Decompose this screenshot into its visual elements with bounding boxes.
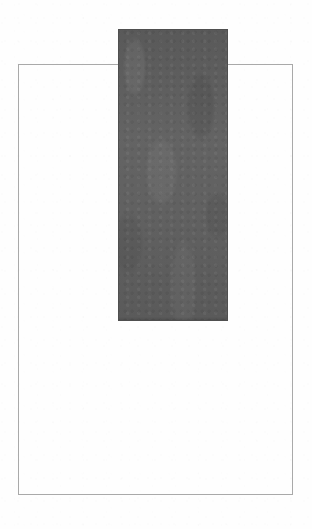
filled-rectangle (118, 29, 228, 321)
ink-texture-overlay (118, 29, 228, 321)
artboard (0, 0, 312, 529)
ink-shading-overlay (119, 30, 227, 320)
ink-bottom-edge-shadow (119, 317, 227, 320)
